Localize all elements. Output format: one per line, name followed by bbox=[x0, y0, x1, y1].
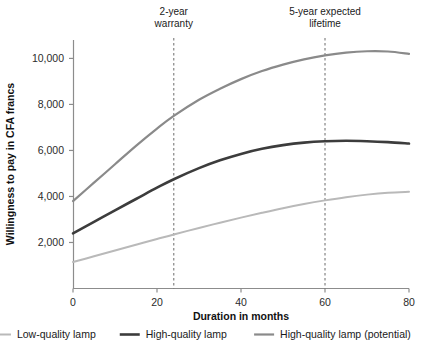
y-tick-label: 6,000 bbox=[38, 144, 64, 156]
y-axis-title: Willingness to pay in CFA francs bbox=[4, 83, 16, 245]
x-tick-label: 20 bbox=[151, 296, 163, 308]
series-line-2 bbox=[73, 51, 409, 201]
y-axis-tick-labels: 2,0004,0006,0008,00010,000 bbox=[32, 52, 64, 248]
series-line-0 bbox=[73, 192, 409, 262]
x-axis-title: Duration in months bbox=[193, 310, 289, 322]
y-tick-label: 8,000 bbox=[38, 98, 64, 110]
y-tick-label: 10,000 bbox=[32, 52, 64, 64]
series-lines bbox=[73, 51, 409, 262]
y-axis-ticks bbox=[69, 58, 73, 242]
chart-container: 020406080 2,0004,0006,0008,00010,000 2-y… bbox=[0, 0, 432, 353]
x-tick-label: 0 bbox=[70, 296, 76, 308]
annotation-labels: 2-yearwarranty5-year expectedlifetime bbox=[154, 6, 361, 29]
chart-legend: Low-quality lampHigh-quality lampHigh-qu… bbox=[0, 328, 411, 340]
x-tick-label: 80 bbox=[403, 296, 415, 308]
y-tick-label: 2,000 bbox=[38, 236, 64, 248]
annotation-label-line1-0: 2-year bbox=[160, 6, 189, 17]
x-tick-label: 60 bbox=[319, 296, 331, 308]
series-line-1 bbox=[73, 141, 409, 234]
x-axis-tick-labels: 020406080 bbox=[70, 296, 415, 308]
annotation-label-line2-0: warranty bbox=[154, 18, 193, 29]
annotation-label-line1-1: 5-year expected bbox=[289, 6, 361, 17]
plot-area: 020406080 2,0004,0006,0008,00010,000 bbox=[32, 38, 415, 308]
annotation-label-line2-1: lifetime bbox=[309, 18, 341, 29]
legend-label-1: High-quality lamp bbox=[146, 328, 227, 340]
x-tick-label: 40 bbox=[235, 296, 247, 308]
legend-label-2: High-quality lamp (potential) bbox=[280, 328, 411, 340]
y-tick-label: 4,000 bbox=[38, 190, 64, 202]
willingness-to-pay-line-chart: 020406080 2,0004,0006,0008,00010,000 2-y… bbox=[0, 0, 432, 353]
legend-label-0: Low-quality lamp bbox=[17, 328, 96, 340]
